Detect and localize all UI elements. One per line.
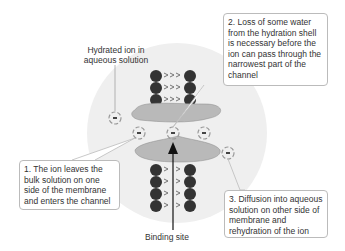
hydrated-ion-label-line1: Hydrated ion in	[80, 45, 152, 55]
hydrated-ion-label-line2: aqueous solution	[80, 55, 152, 65]
callout-2: 2. Loss of some water from the hydration…	[223, 13, 328, 86]
hydrated-ion-label: Hydrated ion in aqueous solution	[80, 45, 152, 65]
callout-1: 1. The ion leaves the bulk solution on o…	[19, 160, 120, 210]
binding-site-label: Binding site	[145, 232, 189, 242]
callout-3: 3. Diffusion into aqueous solution on ot…	[224, 190, 328, 238]
